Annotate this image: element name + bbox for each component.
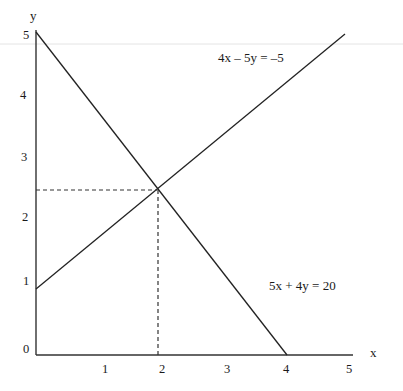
x-tick-1: 1 [102, 363, 108, 376]
y-tick-3: 3 [21, 151, 27, 164]
y-tick-4: 4 [20, 89, 26, 102]
y-tick-1: 1 [23, 275, 29, 288]
x-axis-label: x [370, 346, 377, 359]
y-axis-label: y [30, 9, 37, 22]
x-tick-2: 2 [159, 363, 165, 376]
y-tick-2: 2 [22, 211, 28, 224]
chart-canvas [0, 0, 403, 391]
x-tick-3: 3 [224, 363, 230, 376]
x-tick-5: 5 [346, 363, 352, 376]
label-4x-minus-5y: 4x – 5y = –5 [218, 51, 284, 64]
line-5x-plus-4y-eq-20 [36, 32, 287, 355]
y-tick-5: 5 [23, 29, 29, 42]
y-tick-0: 0 [23, 343, 29, 356]
line-4x-minus-5y-eq-neg5 [36, 34, 345, 289]
x-tick-4: 4 [283, 363, 289, 376]
label-5x-plus-4y: 5x + 4y = 20 [269, 279, 336, 292]
